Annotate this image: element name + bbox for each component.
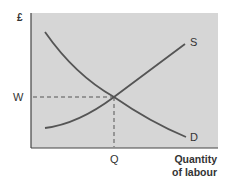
plot-area — [31, 13, 218, 148]
y-axis-label: £ — [17, 12, 23, 23]
wage-label: W — [13, 91, 24, 103]
supply-label: S — [190, 36, 197, 48]
demand-label: D — [190, 131, 198, 143]
x-axis-label-line1: Quantity — [174, 153, 217, 165]
labour-market-diagram: £ W Q S D Quantity of labour — [0, 0, 227, 182]
x-axis-label-line2: of labour — [172, 166, 217, 178]
quantity-label: Q — [110, 153, 119, 165]
